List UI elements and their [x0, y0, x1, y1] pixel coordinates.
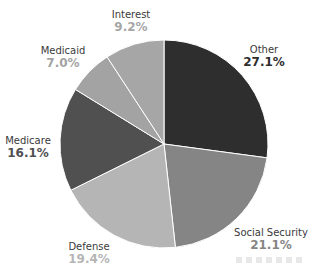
slice-percent: 9.2%	[112, 21, 151, 34]
label-social-security: Social Security 21.1%	[234, 226, 308, 252]
pie-slices	[60, 40, 268, 248]
slice-percent: 19.4%	[68, 253, 110, 266]
label-medicare: Medicare 16.1%	[5, 134, 51, 160]
slice-percent: 21.1%	[234, 239, 308, 252]
label-other: Other 27.1%	[243, 43, 285, 69]
label-defense: Defense 19.4%	[68, 240, 110, 266]
slice-percent: 16.1%	[5, 147, 51, 160]
slice-percent: 27.1%	[243, 56, 285, 69]
label-medicaid: Medicaid 7.0%	[41, 44, 86, 70]
label-interest: Interest 9.2%	[112, 8, 151, 34]
slice-percent: 7.0%	[41, 57, 86, 70]
faint-cropped-caption	[236, 257, 306, 263]
